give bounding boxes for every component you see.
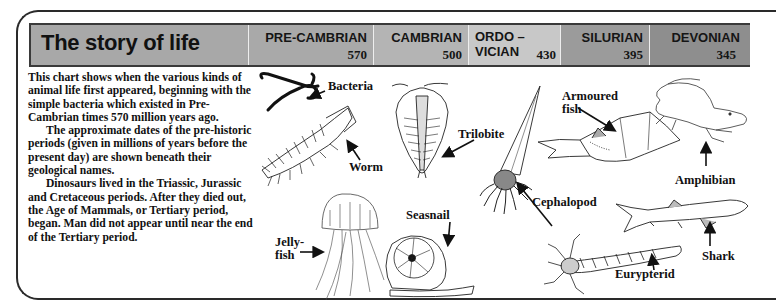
cephalopod-icon	[480, 86, 540, 214]
armoured-fish-icon	[538, 112, 680, 161]
label-armoured-fish-line2: fish	[562, 102, 581, 116]
label-bacteria: Bacteria	[328, 80, 373, 93]
label-worm: Worm	[349, 161, 383, 174]
label-eurypterid: Eurypterid	[615, 268, 675, 281]
label-jellyfish-line2: fish	[275, 248, 294, 262]
label-amphibian: Amphibian	[675, 174, 735, 187]
label-cephalopod: Cephalopod	[532, 196, 597, 209]
label-armoured-fish-line1: Armoured	[562, 89, 618, 103]
shark-icon	[616, 200, 748, 232]
trilobite-icon	[392, 83, 448, 178]
eurypterid-icon	[544, 234, 681, 294]
label-shark: Shark	[702, 250, 735, 263]
label-trilobite: Trilobite	[458, 128, 504, 141]
label-jellyfish: Jelly- fish	[275, 236, 304, 262]
label-armoured-fish: Armoured fish	[562, 90, 618, 116]
label-jellyfish-line1: Jelly-	[275, 235, 304, 249]
bacteria-icon	[261, 74, 318, 111]
jellyfish-icon	[316, 194, 384, 300]
label-seasnail: Seasnail	[406, 209, 450, 222]
worm-icon	[262, 106, 356, 186]
seasnail-icon	[386, 236, 474, 297]
